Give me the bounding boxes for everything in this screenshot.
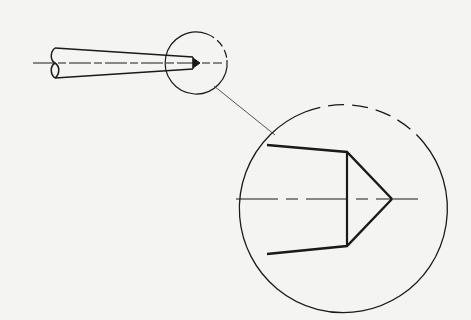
leader-line: [214, 86, 275, 135]
detail-circle-solid: [239, 112, 447, 313]
detail-body-bottom: [267, 199, 392, 254]
detail-circle-dashed: [305, 105, 424, 143]
technical-drawing: [0, 0, 471, 320]
shaft-point: [193, 58, 200, 68]
shaft-bottom-edge: [55, 69, 193, 78]
detail-body-top: [267, 145, 392, 199]
overview-shaft: [33, 48, 222, 78]
detail-view: [236, 105, 447, 313]
shaft-top-edge: [55, 48, 193, 57]
